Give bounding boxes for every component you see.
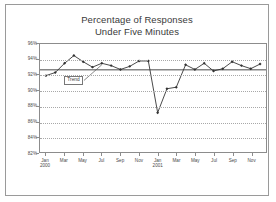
x-axis-tick-mark (195, 153, 196, 156)
x-axis-tick-month: Mar (60, 158, 68, 163)
x-axis-labels: Jan2000MarMayJulSepNovJan2001MarMayJulSe… (39, 158, 267, 180)
data-point-marker (156, 111, 159, 114)
x-axis-tick-mark (45, 153, 46, 156)
x-axis-tick-mark (233, 153, 234, 156)
x-axis-tick-label: Mar (60, 158, 68, 163)
x-axis-tick-label: Mar (173, 158, 181, 163)
x-axis-tick-label: Nov (248, 158, 256, 163)
plot-area (39, 43, 267, 153)
data-point-marker (184, 63, 187, 66)
x-axis-tick-mark (252, 153, 253, 156)
data-point-marker (175, 86, 178, 89)
gridline (40, 138, 266, 139)
chart-title-line-2: Under Five Minutes (6, 26, 268, 38)
x-axis-tick-month: Jul (98, 158, 104, 163)
x-axis-tick-month: Mar (173, 158, 181, 163)
gridline (40, 60, 266, 61)
data-point-marker (119, 68, 122, 71)
gridline (40, 107, 266, 108)
x-axis-tick-month: Sep (229, 158, 237, 163)
x-axis-tick-month: May (191, 158, 200, 163)
chart-frame: Percentage of Responses Under Five Minut… (5, 4, 269, 196)
chart-title: Percentage of Responses Under Five Minut… (6, 14, 268, 37)
x-axis-tick-label: Jan2001 (153, 158, 163, 169)
x-axis-tick-label: May (78, 158, 87, 163)
x-axis-tick-label: Jul (211, 158, 217, 163)
x-axis-tick-month: Jul (211, 158, 217, 163)
x-axis-tick-mark (120, 153, 121, 156)
data-point-marker (240, 64, 243, 67)
x-axis-tick-year: 2001 (153, 163, 163, 168)
x-axis-tick-mark (101, 153, 102, 156)
x-axis-tick-month: May (78, 158, 87, 163)
x-axis-tick-label: Sep (229, 158, 237, 163)
x-axis-tick-year: 2000 (40, 163, 50, 168)
gridline (40, 91, 266, 92)
x-axis-tick-label: Jul (98, 158, 104, 163)
gridline (40, 123, 266, 124)
x-axis-tick-mark (214, 153, 215, 156)
trend-callout-label: Trend (64, 76, 82, 85)
x-axis-tick-mark (64, 153, 65, 156)
x-axis-tick-label: Jan2000 (40, 158, 50, 169)
x-axis-tick-label: May (191, 158, 200, 163)
x-axis-tick-label: Nov (135, 158, 143, 163)
x-axis-tick-month: Sep (116, 158, 124, 163)
x-axis-tick-month: Nov (135, 158, 143, 163)
x-axis-tick-mark (158, 153, 159, 156)
data-point-marker (259, 63, 262, 66)
x-axis-tick-month: Jan (41, 158, 48, 163)
x-axis-tick-label: Sep (116, 158, 124, 163)
x-axis-tick-mark (139, 153, 140, 156)
data-point-marker (165, 87, 168, 90)
chart-title-line-1: Percentage of Responses (81, 14, 193, 25)
data-point-marker (110, 64, 113, 67)
x-axis-tick-month: Jan (154, 158, 161, 163)
y-axis-labels: 82%84%86%88%90%92%94%96% (16, 43, 37, 153)
data-point-marker (100, 62, 103, 65)
x-axis-tick-mark (83, 153, 84, 156)
x-axis-ticks (39, 153, 267, 157)
x-axis-tick-mark (176, 153, 177, 156)
x-axis-tick-month: Nov (248, 158, 256, 163)
